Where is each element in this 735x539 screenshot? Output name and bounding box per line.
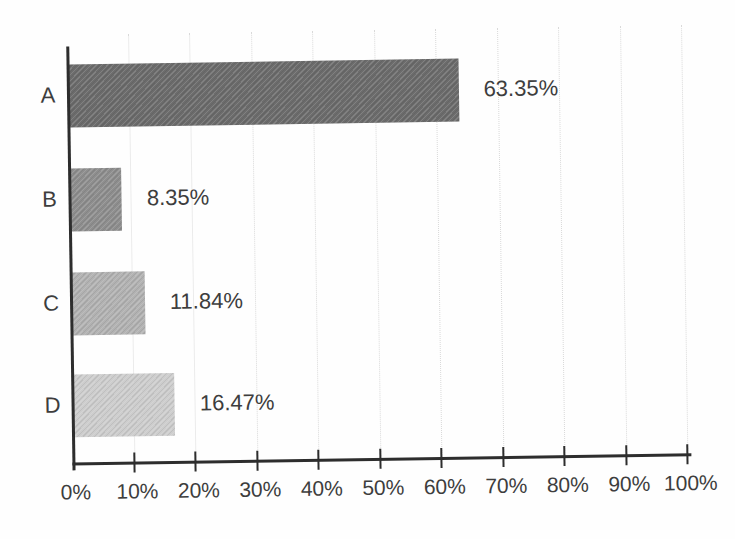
x-axis-tick-labels-layer: 0%10%20%30%40%50%60%70%80%90%100%	[0, 0, 735, 539]
chart-canvas: ABCD 63.35%8.35%11.84%16.47% 0%10%20%30%…	[0, 0, 735, 539]
x-axis-tick-label: 100%	[653, 472, 729, 494]
bar-chart-figure: ABCD 63.35%8.35%11.84%16.47% 0%10%20%30%…	[0, 0, 735, 539]
